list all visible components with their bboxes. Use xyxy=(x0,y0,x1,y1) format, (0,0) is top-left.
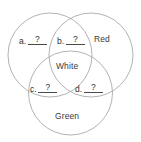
region-c-tag: c. xyxy=(30,85,37,94)
region-a-tag: a. xyxy=(19,37,26,46)
region-label-green: Green xyxy=(55,112,79,121)
venn-diagram: a. ? b. ? Red White c. ? d. ? Green xyxy=(0,0,141,142)
region-d-answer: ? xyxy=(84,83,103,93)
region-b-answer: ? xyxy=(66,35,85,45)
region-c-answer: ? xyxy=(38,83,57,93)
region-label-c: c. ? xyxy=(30,83,57,93)
region-label-d: d. ? xyxy=(75,83,103,93)
region-b-tag: b. xyxy=(57,37,64,46)
region-d-tag: d. xyxy=(75,85,82,94)
region-label-white: White xyxy=(56,62,78,71)
region-a-answer: ? xyxy=(28,35,47,45)
region-label-b: b. ? xyxy=(57,35,85,45)
region-label-a: a. ? xyxy=(19,35,47,45)
region-label-red: Red xyxy=(94,35,110,44)
